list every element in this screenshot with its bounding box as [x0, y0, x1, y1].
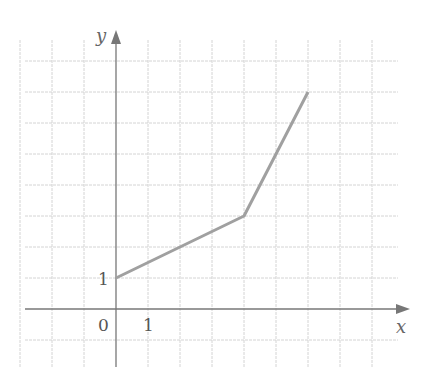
y-tick-label-1: 1: [98, 269, 109, 289]
x-axis-arrow-icon: [396, 304, 410, 314]
grid-lines: [20, 40, 398, 367]
y-axis-label: y: [95, 25, 107, 46]
x-axis-label: x: [396, 316, 406, 337]
graph-canvas: y x 0 1 1: [0, 0, 429, 377]
y-axis-arrow-icon: [111, 30, 121, 44]
origin-label: 0: [98, 315, 109, 335]
x-tick-label-1: 1: [143, 315, 154, 335]
